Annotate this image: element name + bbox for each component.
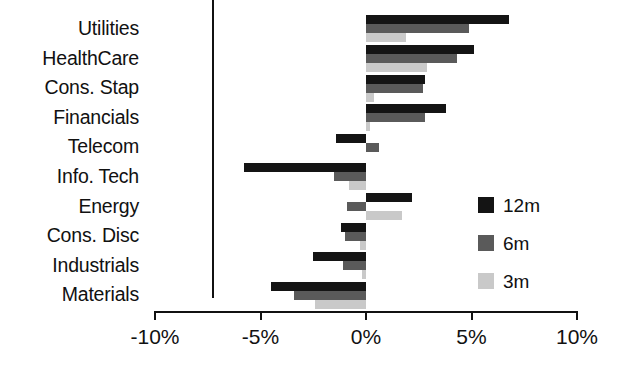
- x-axis-tick: [471, 311, 473, 320]
- bar-group: [155, 104, 577, 131]
- category-label: HealthCare: [0, 44, 148, 74]
- bar-6m: [366, 113, 425, 122]
- bar-group: [155, 134, 577, 161]
- x-axis-tick-label: 5%: [456, 326, 486, 347]
- bar-3m: [315, 300, 366, 309]
- bar-chart: UtilitiesHealthCareCons. StapFinancialsT…: [0, 0, 622, 374]
- bar-6m: [366, 24, 469, 33]
- bar-12m: [341, 223, 366, 232]
- category-label: Energy: [0, 192, 148, 222]
- category-label: Info. Tech: [0, 162, 148, 192]
- bar-6m: [345, 232, 366, 241]
- x-axis-tick-label: 10%: [556, 326, 598, 347]
- legend-swatch-icon: [478, 197, 494, 213]
- bar-12m: [366, 15, 509, 24]
- category-axis-labels: UtilitiesHealthCareCons. StapFinancialsT…: [0, 14, 148, 310]
- bar-6m: [334, 172, 366, 181]
- bar-3m: [360, 241, 366, 250]
- x-axis-tick-label: -5%: [242, 326, 279, 347]
- category-label: Industrials: [0, 251, 148, 281]
- legend-item-6m: 6m: [478, 224, 588, 262]
- legend-label: 3m: [503, 272, 529, 291]
- legend-swatch-icon: [478, 235, 494, 251]
- bar-12m: [271, 282, 366, 291]
- bar-6m: [343, 261, 366, 270]
- bar-12m: [313, 252, 366, 261]
- bar-group: [155, 75, 577, 102]
- legend-label: 12m: [503, 196, 540, 215]
- bar-12m: [366, 75, 425, 84]
- x-axis-tick: [576, 311, 578, 320]
- bar-3m: [366, 211, 402, 220]
- bar-group: [155, 45, 577, 72]
- bar-12m: [244, 163, 366, 172]
- bar-3m: [366, 33, 406, 42]
- x-axis-tick: [154, 311, 156, 320]
- bar-12m: [336, 134, 366, 143]
- bar-6m: [366, 84, 423, 93]
- bar-group: [155, 15, 577, 42]
- bar-6m: [294, 291, 366, 300]
- legend-item-3m: 3m: [478, 262, 588, 300]
- bar-6m: [366, 143, 379, 152]
- legend-label: 6m: [503, 234, 529, 253]
- chart-legend: 12m6m3m: [478, 186, 588, 300]
- category-label: Materials: [0, 280, 148, 310]
- zero-axis-line: [212, 0, 214, 298]
- legend-swatch-icon: [478, 273, 494, 289]
- bar-3m: [366, 93, 374, 102]
- bar-6m: [366, 54, 457, 63]
- category-label: Financials: [0, 103, 148, 133]
- bar-3m: [362, 270, 366, 279]
- x-axis-tick-label: 0%: [351, 326, 381, 347]
- x-axis-tick-label: -10%: [130, 326, 179, 347]
- bar-3m: [366, 122, 370, 131]
- category-label: Cons. Disc: [0, 221, 148, 251]
- category-label: Cons. Stap: [0, 73, 148, 103]
- category-label: Telecom: [0, 132, 148, 162]
- x-axis-tick: [365, 311, 367, 320]
- bar-3m: [349, 181, 366, 190]
- category-label: Utilities: [0, 14, 148, 44]
- bar-12m: [366, 45, 474, 54]
- bar-12m: [366, 104, 446, 113]
- bar-3m: [366, 63, 427, 72]
- x-axis-tick: [260, 311, 262, 320]
- bar-12m: [366, 193, 412, 202]
- bar-6m: [347, 202, 366, 211]
- legend-item-12m: 12m: [478, 186, 588, 224]
